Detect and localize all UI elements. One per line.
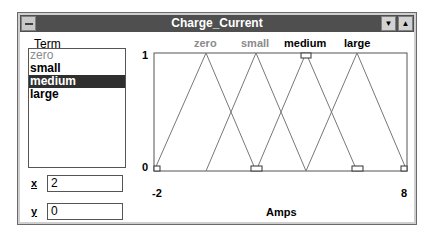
handle-left-end xyxy=(154,166,160,171)
handle-medium-end xyxy=(352,166,363,171)
handle-medium-start xyxy=(251,166,262,171)
curve-zero xyxy=(154,53,256,171)
handle-right-end xyxy=(401,166,407,171)
curve-small xyxy=(206,53,306,171)
charge-current-window: Charge_Current ▼ ▲ Term zero small mediu… xyxy=(17,12,417,225)
membership-function-plot[interactable] xyxy=(18,13,418,226)
handle-medium-peak xyxy=(301,53,311,58)
curve-medium xyxy=(256,53,357,171)
curve-large xyxy=(306,53,407,171)
